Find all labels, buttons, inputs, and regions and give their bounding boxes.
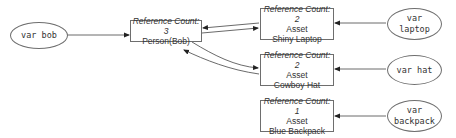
- edge-laptop-to-person: [203, 23, 259, 28]
- hat-name: Cowboy Hat: [274, 80, 320, 90]
- backpack-type: Asset: [286, 116, 307, 126]
- var-backpack-line2: backpack: [394, 116, 435, 127]
- edge-person-to-hat: [192, 42, 258, 68]
- edge-hat-to-person: [184, 50, 259, 74]
- var-backpack-line1: var: [407, 105, 422, 116]
- laptop-ref-count: Reference Count: 2: [261, 4, 333, 24]
- laptop-name: Shiny Laptop: [272, 34, 322, 44]
- backpack-ref-count: Reference Count: 1: [261, 96, 333, 116]
- var-hat-label: var hat: [397, 65, 433, 76]
- var-bob-node: var bob: [10, 22, 68, 49]
- var-hat-node: var hat: [387, 55, 442, 85]
- person-bob-box: Reference Count: 3 Person(Bob): [130, 20, 202, 42]
- backpack-name: Blue Backpack: [269, 126, 325, 136]
- laptop-type: Asset: [286, 24, 307, 34]
- edge-person-to-laptop: [202, 28, 258, 33]
- var-laptop-node: var laptop: [387, 8, 442, 40]
- person-type: Person(Bob): [142, 36, 190, 46]
- backpack-box: Reference Count: 1 Asset Blue Backpack: [260, 100, 334, 132]
- person-ref-count: Reference Count: 3: [131, 16, 201, 36]
- hat-type: Asset: [286, 70, 307, 80]
- var-bob-label: var bob: [21, 30, 57, 41]
- var-backpack-node: var backpack: [387, 100, 442, 132]
- hat-ref-count: Reference Count: 2: [261, 50, 333, 70]
- laptop-box: Reference Count: 2 Asset Shiny Laptop: [260, 8, 334, 40]
- var-laptop-line2: laptop: [399, 24, 430, 35]
- var-laptop-line1: var: [407, 13, 422, 24]
- hat-box: Reference Count: 2 Asset Cowboy Hat: [260, 54, 334, 86]
